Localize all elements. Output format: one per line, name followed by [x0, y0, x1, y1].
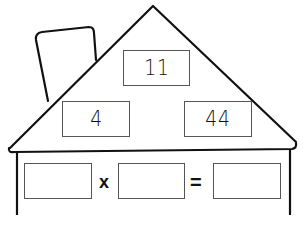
- chimney: [36, 27, 96, 101]
- multiply-sign: x: [99, 173, 109, 191]
- eave-line: [9, 143, 296, 152]
- result-answer-box[interactable]: [213, 163, 281, 199]
- roof-top-number-box[interactable]: 11: [123, 50, 190, 86]
- roof-right-number: 44: [205, 108, 231, 130]
- roof-right-number-box[interactable]: 44: [184, 101, 252, 137]
- operand2-answer-box[interactable]: [118, 163, 185, 199]
- roof-left-number: 4: [90, 108, 103, 130]
- roof-left-number-box[interactable]: 4: [62, 101, 130, 137]
- roof-top-number: 11: [144, 57, 170, 79]
- equals-sign: =: [190, 172, 202, 192]
- operand1-answer-box[interactable]: [24, 163, 92, 199]
